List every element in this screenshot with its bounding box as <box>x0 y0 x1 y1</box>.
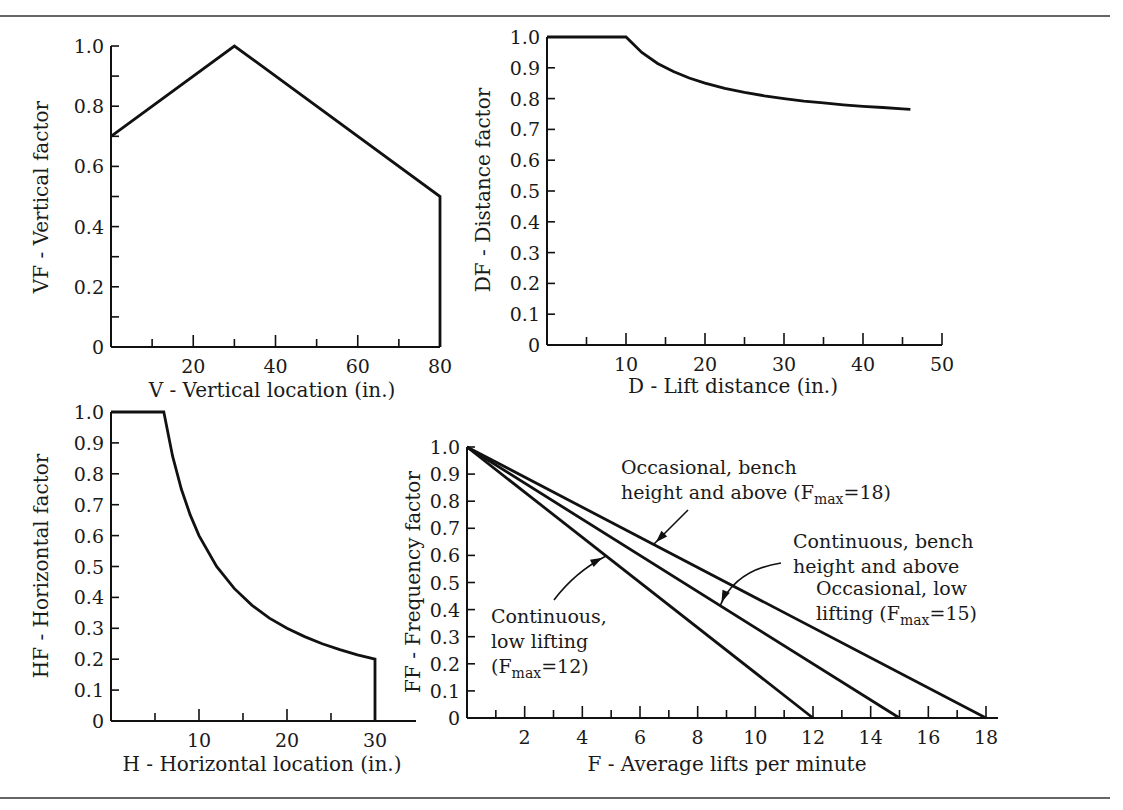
y-tick-label: 0.7 <box>74 494 104 516</box>
x-tick-label: 30 <box>772 353 796 375</box>
chart-frequency-factor: 2468101214161800.10.20.30.40.50.60.70.80… <box>401 436 998 776</box>
y-tick-label: 0.1 <box>74 679 104 701</box>
y-tick-label: 0.1 <box>430 680 460 702</box>
svg-text:Occasional, low: Occasional, low <box>816 577 968 599</box>
y-axis-title: HF - Horizontal factor <box>29 453 53 678</box>
arrowhead-icon <box>590 558 602 567</box>
y-tick-label: 0.6 <box>430 544 460 566</box>
y-tick-label: 0 <box>92 336 104 358</box>
y-tick-label: 0.3 <box>430 626 460 648</box>
x-tick-label: 18 <box>974 726 998 748</box>
y-tick-label: 0.2 <box>74 648 104 670</box>
y-tick-label: 0.4 <box>510 211 540 233</box>
x-tick-label: 20 <box>693 353 717 375</box>
y-tick-label: 0.1 <box>510 303 540 325</box>
y-tick-label: 1.0 <box>510 26 540 48</box>
x-axis-title: D - Lift distance (in.) <box>628 374 838 398</box>
y-tick-label: 1.0 <box>74 401 104 423</box>
y-tick-label: 0.2 <box>74 276 104 298</box>
svg-text:low lifting: low lifting <box>491 630 588 652</box>
x-tick-label: 50 <box>930 353 954 375</box>
chart-horizontal-factor: 10203000.10.20.30.40.50.60.70.80.91.0H -… <box>29 401 416 776</box>
svg-text:lifting (Fmax=15): lifting (Fmax=15) <box>816 602 977 628</box>
y-tick-label: 0.6 <box>510 149 540 171</box>
x-tick-label: 10 <box>187 729 211 751</box>
y-tick-label: 0.7 <box>430 517 460 539</box>
y-tick-label: 0.5 <box>510 180 540 202</box>
y-tick-label: 0 <box>528 334 540 356</box>
data-line <box>111 46 440 347</box>
svg-text:height and above (Fmax=18): height and above (Fmax=18) <box>621 481 891 507</box>
x-tick-label: 20 <box>275 729 299 751</box>
y-tick-label: 0.8 <box>74 95 104 117</box>
x-tick-label: 40 <box>851 353 875 375</box>
y-tick-label: 0 <box>92 710 104 732</box>
x-axis-title: V - Vertical location (in.) <box>148 378 396 402</box>
svg-text:(Fmax=12): (Fmax=12) <box>491 655 589 681</box>
y-tick-label: 0.5 <box>430 572 460 594</box>
y-tick-label: 1.0 <box>74 35 104 57</box>
y-tick-label: 0.3 <box>74 617 104 639</box>
y-tick-label: 0.5 <box>74 556 104 578</box>
y-tick-label: 0.8 <box>74 463 104 485</box>
chart-distance-factor: 102030405000.10.20.30.40.50.60.70.80.91.… <box>471 26 954 398</box>
y-tick-label: 0.8 <box>430 490 460 512</box>
svg-text:Continuous, bench: Continuous, bench <box>793 530 973 552</box>
x-tick-label: 4 <box>576 726 588 748</box>
data-line <box>547 37 910 109</box>
figure: 2040608000.20.40.60.81.0V - Vertical loc… <box>0 0 1123 810</box>
x-tick-label: 60 <box>346 355 370 377</box>
x-tick-label: 20 <box>181 355 205 377</box>
y-tick-label: 0.2 <box>430 653 460 675</box>
y-tick-label: 0.9 <box>74 432 104 454</box>
y-tick-label: 0.7 <box>510 118 540 140</box>
y-tick-label: 0.4 <box>430 599 460 621</box>
x-tick-label: 8 <box>692 726 704 748</box>
svg-text:Occasional, bench: Occasional, bench <box>621 456 797 478</box>
x-tick-label: 10 <box>614 353 638 375</box>
y-axis-title: DF - Distance factor <box>471 87 495 292</box>
x-tick-label: 16 <box>916 726 940 748</box>
x-tick-label: 10 <box>743 726 767 748</box>
svg-text:Continuous,: Continuous, <box>491 605 607 627</box>
x-tick-label: 14 <box>859 726 883 748</box>
y-tick-label: 0.2 <box>510 272 540 294</box>
chart-vertical-factor: 2040608000.20.40.60.81.0V - Vertical loc… <box>29 35 452 402</box>
y-tick-label: 0.4 <box>74 216 104 238</box>
y-tick-label: 1.0 <box>430 436 460 458</box>
svg-text:height and above: height and above <box>793 555 959 577</box>
y-axis-title: FF - Frequency factor <box>401 471 425 693</box>
y-tick-label: 0 <box>448 707 460 729</box>
x-axis-title: F - Average lifts per minute <box>587 752 866 776</box>
x-axis-title: H - Horizontal location (in.) <box>122 752 401 776</box>
x-tick-label: 80 <box>428 355 452 377</box>
x-tick-label: 12 <box>801 726 825 748</box>
y-tick-label: 0.8 <box>510 88 540 110</box>
x-tick-label: 30 <box>363 729 387 751</box>
x-tick-label: 6 <box>634 726 646 748</box>
x-tick-label: 40 <box>263 355 287 377</box>
annotation-arrow-icon <box>554 556 606 600</box>
y-tick-label: 0.9 <box>510 57 540 79</box>
y-axis-title: VF - Vertical factor <box>29 100 53 294</box>
y-tick-label: 0.6 <box>74 155 104 177</box>
x-tick-label: 2 <box>519 726 531 748</box>
y-tick-label: 0.4 <box>74 586 104 608</box>
y-tick-label: 0.9 <box>430 463 460 485</box>
y-tick-label: 0.3 <box>510 242 540 264</box>
data-line <box>111 412 375 721</box>
y-tick-label: 0.6 <box>74 525 104 547</box>
